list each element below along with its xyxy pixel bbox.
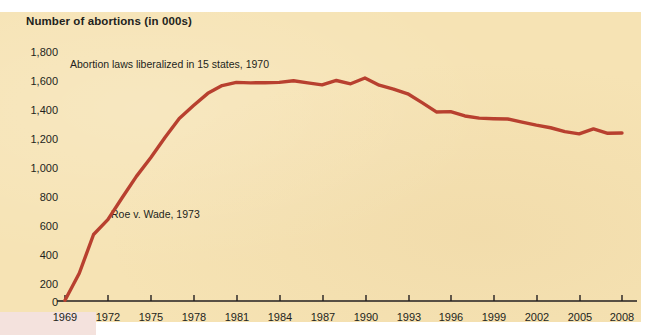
chart-figure: Number of abortions (in 000s) 1,800 1,60…: [0, 0, 659, 335]
chart-plot-area: [0, 0, 659, 335]
x-axis-ticks: [65, 295, 622, 301]
abortions-trend-line: [65, 78, 622, 300]
